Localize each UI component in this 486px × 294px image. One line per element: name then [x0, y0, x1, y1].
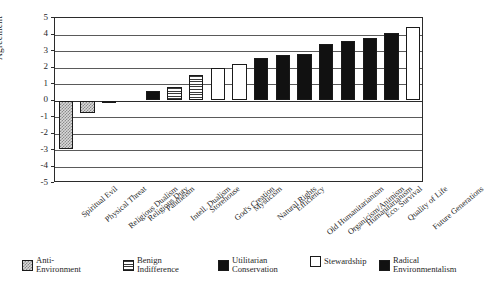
legend-swatch-icon: [310, 256, 321, 267]
legend-swatch-icon: [218, 260, 229, 271]
legend-swatch-icon: [123, 260, 134, 271]
legend-label: Utilitarian Conservation: [232, 256, 278, 274]
legend-label: Benign Indifference: [137, 256, 179, 274]
legend-swatch-icon: [22, 260, 33, 271]
legend-label: Anti- Environment: [36, 256, 81, 274]
chart-legend: Anti- EnvironmentBenign IndifferenceUtil…: [22, 252, 426, 284]
legend-item-radical-environmentalism[interactable]: Radical Environmentalism: [379, 256, 457, 274]
legend-item-stewardship[interactable]: Stewardship: [310, 256, 367, 267]
legend-label: Stewardship: [324, 257, 367, 266]
legend-item-anti-environment[interactable]: Anti- Environment: [22, 256, 81, 274]
legend-swatch-icon: [379, 260, 390, 271]
legend-item-utilitarian-conservation[interactable]: Utilitarian Conservation: [218, 256, 278, 274]
legend-label: Radical Environmentalism: [393, 256, 457, 274]
legend-item-benign-indifference[interactable]: Benign Indifference: [123, 256, 179, 274]
